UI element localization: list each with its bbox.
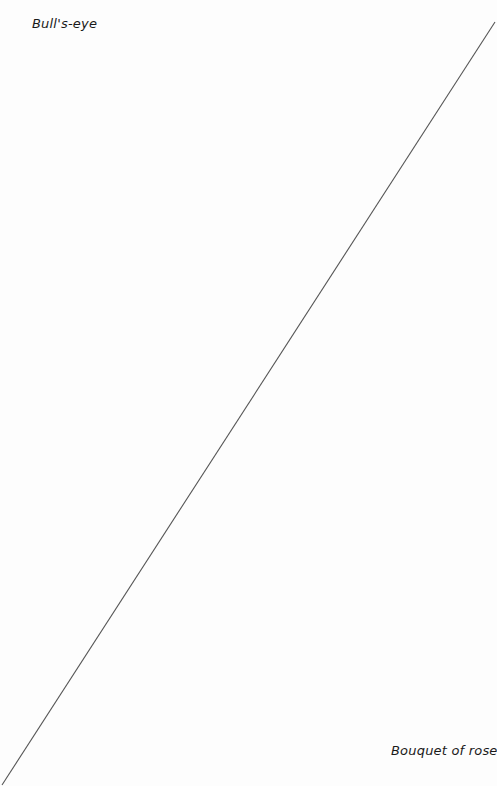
connector-line-layer	[0, 0, 497, 786]
label-bulls-eye: Bull's-eye	[32, 16, 97, 31]
drawing-canvas: Bull's-eye Bouquet of roses	[0, 0, 497, 786]
label-bouquet-of-roses: Bouquet of roses	[391, 743, 497, 758]
diagonal-connector-line	[2, 22, 495, 785]
